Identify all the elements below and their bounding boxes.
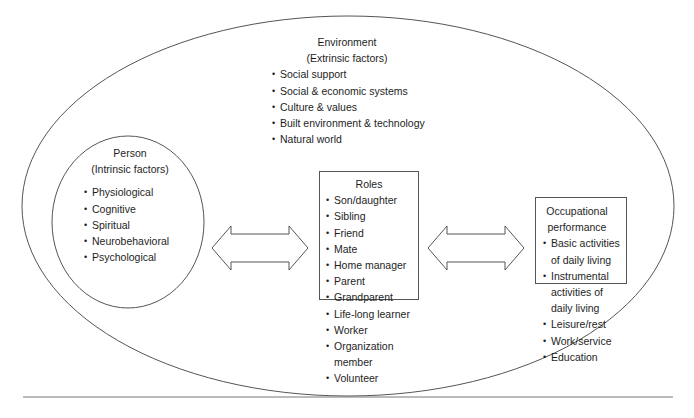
list-item: Instrumental activities of daily living <box>543 268 617 317</box>
list-item: Culture & values <box>272 99 472 115</box>
list-item: Organization member <box>326 338 406 370</box>
list-item: Natural world <box>272 131 472 147</box>
list-item: Social & economic systems <box>272 83 472 99</box>
list-item: Work/service <box>543 333 625 349</box>
environment-subtitle: (Extrinsic factors) <box>272 50 422 66</box>
list-item: Leisure/rest <box>543 316 625 332</box>
occupational-performance-list: Basic activities of daily living Instrum… <box>543 235 625 365</box>
list-item: Son/daughter <box>326 192 418 208</box>
list-item: Cognitive <box>84 201 180 217</box>
environment-title: Environment <box>272 34 422 50</box>
list-item: Volunteer <box>326 370 418 386</box>
list-item: Grandparent <box>326 289 418 305</box>
list-item: Home manager <box>326 257 418 273</box>
list-item: Parent <box>326 273 418 289</box>
list-item: Sibling <box>326 208 418 224</box>
person-block: Person (Intrinsic factors) Physiological… <box>80 145 180 265</box>
person-title: Person <box>80 145 180 161</box>
list-item: Spiritual <box>84 217 180 233</box>
environment-list: Social support Social & economic systems… <box>272 66 472 147</box>
list-item: Built environment & technology <box>272 115 472 131</box>
occupational-performance-block: Occupational performance Basic activitie… <box>541 203 625 365</box>
environment-block: Environment (Extrinsic factors) Social s… <box>272 34 472 147</box>
list-item: Friend <box>326 225 418 241</box>
list-item: Basic activities of daily living <box>543 235 625 267</box>
roles-list: Son/daughter Sibling Friend Mate Home ma… <box>326 192 418 386</box>
roles-block: Roles Son/daughter Sibling Friend Mate H… <box>326 176 418 387</box>
list-item: Education <box>543 349 625 365</box>
roles-title: Roles <box>326 176 412 192</box>
list-item: Neurobehavioral <box>84 233 180 249</box>
list-item: Social support <box>272 66 472 82</box>
person-subtitle: (Intrinsic factors) <box>80 161 180 177</box>
occupational-performance-title: Occupational performance <box>541 203 613 235</box>
double-arrow-icon <box>428 226 524 270</box>
list-item: Physiological <box>84 184 180 200</box>
person-list: Physiological Cognitive Spiritual Neurob… <box>84 184 180 265</box>
double-arrow-icon <box>212 226 308 270</box>
list-item: Life-long learner <box>326 306 418 322</box>
list-item: Worker <box>326 322 418 338</box>
list-item: Psychological <box>84 249 180 265</box>
list-item: Mate <box>326 241 418 257</box>
